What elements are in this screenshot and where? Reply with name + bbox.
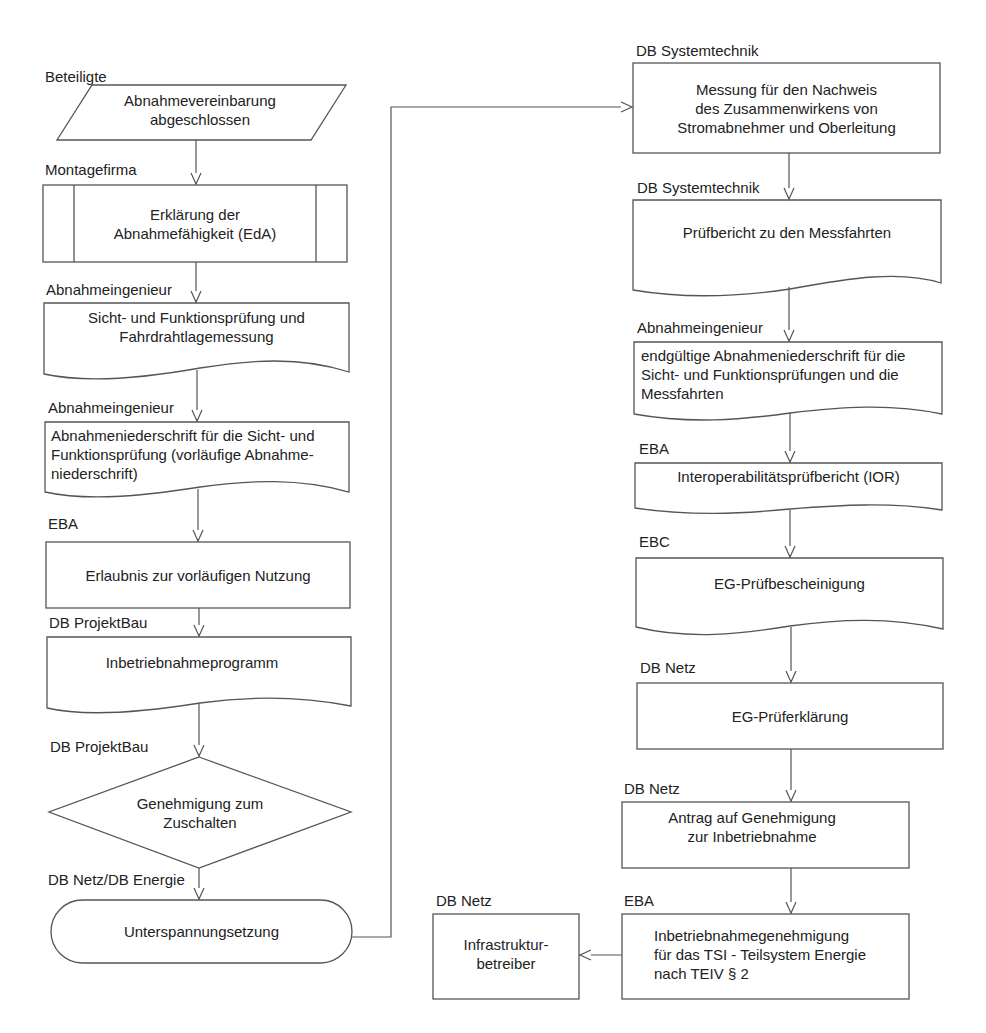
text-line: Messfahrten xyxy=(641,384,905,403)
node-text-abnahmeniederschrift-vorlaeufig: Abnahmeniederschrift für die Sicht- undF… xyxy=(51,424,351,484)
actor-label: EBA xyxy=(624,892,654,910)
text-line: Zuschalten xyxy=(137,813,264,832)
actor-label: DB Netz/DB Energie xyxy=(48,871,185,889)
text-line: Genehmigung zum xyxy=(137,794,264,813)
node-text-pruefbericht-messfahrten: Prüfbericht zu den Messfahrten xyxy=(633,200,941,264)
text-line: EG-Prüferklärung xyxy=(732,707,849,726)
text-line: zur Inbetriebnahme xyxy=(668,827,836,846)
actor-label: DB Netz xyxy=(624,780,680,798)
actor-label: DB Netz xyxy=(436,892,492,910)
node-text-eda: Erklärung derAbnahmefähigkeit (EdA) xyxy=(74,185,316,262)
node-text-genehmigung-zuschalten: Genehmigung zumZuschalten xyxy=(100,790,300,835)
actor-label: EBA xyxy=(639,440,669,458)
node-text-endgueltige-abnahmeniederschrift: endgültige Abnahmeniederschrift für dieS… xyxy=(641,344,941,404)
node-text-sichtpruefung: Sicht- und Funktionsprüfung undFahrdraht… xyxy=(44,303,349,351)
text-line: für das TSI - Teilsystem Energie xyxy=(654,945,866,964)
text-line: Prüfbericht zu den Messfahrten xyxy=(683,223,891,242)
node-text-inbetriebnahmeprogramm: Inbetriebnahmeprogramm xyxy=(47,637,337,687)
actor-label: DB ProjektBau xyxy=(50,738,148,756)
text-line: Unterspannungsetzung xyxy=(124,922,279,941)
actor-label: EBA xyxy=(48,515,78,533)
text-line: Stromabnehmer und Oberleitung xyxy=(677,118,895,137)
text-line: Abnahmevereinbarung xyxy=(124,91,276,110)
text-line: Sicht- und Funktionsprüfung und xyxy=(88,308,305,327)
actor-label: Abnahmeingenieur xyxy=(46,281,172,299)
node-text-eg-prueferklaerung: EG-Prüferklärung xyxy=(637,683,943,749)
text-line: Antrag auf Genehmigung xyxy=(668,808,836,827)
text-line: des Zusammenwirkens von xyxy=(677,99,895,118)
actor-label: Montagefirma xyxy=(45,161,137,179)
text-line: Messung für den Nachweis xyxy=(677,80,895,99)
node-text-eg-pruefbescheinigung: EG-Prüfbescheinigung xyxy=(636,558,943,608)
text-line: EG-Prüfbescheinigung xyxy=(714,574,865,593)
node-text-inbetriebnahmegenehmigung: Inbetriebnahmegenehmigungfür das TSI - T… xyxy=(654,914,909,994)
text-line: endgültige Abnahmeniederschrift für die xyxy=(641,346,905,365)
node-text-unterspannungsetzung: Unterspannungsetzung xyxy=(51,900,352,963)
text-line: Funktionsprüfung (vorläufige Abnahme- xyxy=(51,445,314,464)
node-text-abnahmevereinbarung: Abnahmevereinbarungabgeschlossen xyxy=(80,85,320,135)
node-text-ior: Interoperabilitätsprüfbericht (IOR) xyxy=(635,463,942,489)
actor-label: Abnahmeingenieur xyxy=(48,399,174,417)
actor-label: DB Systemtechnik xyxy=(636,42,759,60)
actor-label: DB Systemtechnik xyxy=(637,179,760,197)
text-line: Erlaubnis zur vorläufigen Nutzung xyxy=(85,566,310,585)
text-line: Inbetriebnahmegenehmigung xyxy=(654,926,866,945)
actor-label: Beteiligte xyxy=(45,68,107,86)
text-line: nach TEIV § 2 xyxy=(654,964,866,983)
text-line: betreiber xyxy=(463,954,548,973)
actor-label: DB Netz xyxy=(640,659,696,677)
text-line: Infrastruktur- xyxy=(463,935,548,954)
text-line: Erklärung der xyxy=(114,205,277,224)
node-text-infrastrukturbetreiber: Infrastruktur-betreiber xyxy=(433,914,579,994)
text-line: Inbetriebnahmeprogramm xyxy=(106,653,279,672)
text-line: abgeschlossen xyxy=(124,110,276,129)
text-line: Abnahmeniederschrift für die Sicht- und xyxy=(51,426,314,445)
actor-label: DB ProjektBau xyxy=(49,614,147,632)
node-text-antrag-genehmigung: Antrag auf Genehmigungzur Inbetriebnahme xyxy=(622,802,882,852)
text-line: niederschrift) xyxy=(51,464,314,483)
text-line: Interoperabilitätsprüfbericht (IOR) xyxy=(677,467,900,486)
connector-left-to-right xyxy=(352,107,632,937)
actor-label: Abnahmeingenieur xyxy=(637,319,763,337)
actor-label: EBC xyxy=(639,533,670,551)
node-text-erlaubnis: Erlaubnis zur vorläufigen Nutzung xyxy=(46,542,350,608)
text-line: Fahrdrahtlagemessung xyxy=(88,327,305,346)
text-line: Sicht- und Funktionsprüfungen und die xyxy=(641,365,905,384)
node-text-messung-nachweis: Messung für den Nachweisdes Zusammenwirk… xyxy=(633,63,940,153)
text-line: Abnahmefähigkeit (EdA) xyxy=(114,224,277,243)
